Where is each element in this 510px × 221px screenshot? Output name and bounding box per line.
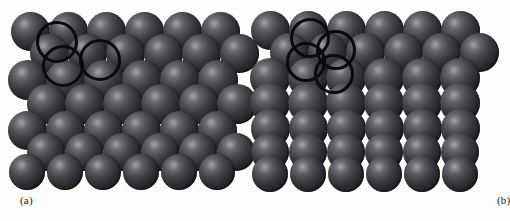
lattice-sphere [9,154,45,190]
lattice-sphere [328,156,364,192]
lattice-sphere [199,154,235,190]
lattice-sphere [161,154,197,190]
panel-a: (a) [0,0,248,221]
panel-b-caption: (b) [497,194,510,206]
sphere-stage-a [0,0,248,221]
lattice-sphere [47,154,83,190]
highlight-ring [79,39,121,81]
lattice-sphere [123,154,159,190]
panel-a-caption: (a) [20,194,33,206]
lattice-sphere [290,156,326,192]
lattice-sphere [442,156,478,192]
sphere-stage-b [248,0,496,221]
lattice-sphere [404,156,440,192]
lattice-sphere [366,156,402,192]
highlight-ring [42,45,84,87]
lattice-sphere [85,154,121,190]
panel-b: (b) [248,0,496,221]
highlight-ring [314,54,354,94]
lattice-sphere [252,156,288,192]
